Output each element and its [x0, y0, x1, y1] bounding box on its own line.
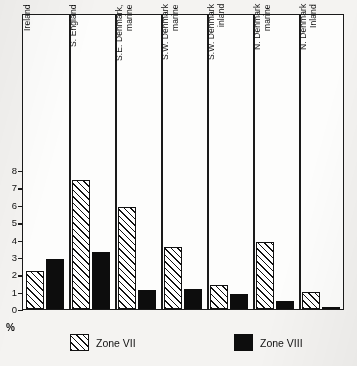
y-axis-tick — [18, 258, 23, 259]
bar-zone-vii — [118, 207, 136, 310]
category-label: N. Denmark Inland — [298, 4, 344, 112]
category-label: S.W. Denmark inland — [206, 4, 252, 112]
y-axis-tick-label: 7 — [3, 182, 17, 193]
y-axis-tick — [18, 171, 23, 172]
category-label: S. England — [68, 4, 114, 112]
bar-zone-viii — [46, 259, 64, 309]
y-axis-tick — [18, 275, 23, 276]
hatched-swatch — [70, 334, 89, 351]
solid-black-swatch — [234, 334, 253, 351]
y-axis-tick — [18, 293, 23, 294]
category-label: S.E. Denmark, marine — [114, 4, 160, 112]
category-label: Ireland — [22, 4, 68, 112]
bar-zone-viii — [138, 290, 156, 309]
category-label: S.W. Denmark marine — [160, 4, 206, 112]
legend-item[interactable]: Zone VII — [70, 334, 136, 351]
y-axis-tick-label: 5 — [3, 217, 17, 228]
legend: Zone VIIZone VIII — [22, 330, 344, 356]
y-axis-tick-label: 0 — [3, 304, 17, 315]
bar-zone-viii — [276, 301, 294, 309]
bar-zone-vii — [210, 285, 228, 309]
y-axis-tick-label: 3 — [3, 252, 17, 263]
y-axis-tick-label: 8 — [3, 165, 17, 176]
y-axis-tick-label: 2 — [3, 269, 17, 280]
bar-zone-viii — [322, 307, 340, 309]
y-axis-tick — [18, 310, 23, 311]
y-axis-tick-label: 1 — [3, 287, 17, 298]
y-axis-unit-label: % — [6, 322, 15, 333]
bar-zone-vii — [302, 292, 320, 309]
bar-zone-vii — [164, 247, 182, 309]
bar-zone-vii — [26, 271, 44, 309]
y-axis-tick-label: 6 — [3, 200, 17, 211]
y-axis-tick — [18, 241, 23, 242]
legend-label: Zone VIII — [260, 337, 303, 349]
chart-figure: 012345678 IrelandS. EnglandS.E. Denmark,… — [0, 0, 357, 366]
y-axis-tick — [18, 223, 23, 224]
bar-zone-vii — [256, 242, 274, 309]
legend-item[interactable]: Zone VIII — [234, 334, 303, 351]
bar-zone-vii — [72, 180, 90, 309]
bar-zone-viii — [184, 289, 202, 309]
legend-label: Zone VII — [96, 337, 136, 349]
y-axis-tick-label: 4 — [3, 235, 17, 246]
bar-zone-viii — [230, 294, 248, 309]
y-axis-tick — [18, 206, 23, 207]
y-axis-tick — [18, 188, 23, 189]
category-label: N. Denmark marine — [252, 4, 298, 112]
bar-zone-viii — [92, 252, 110, 309]
